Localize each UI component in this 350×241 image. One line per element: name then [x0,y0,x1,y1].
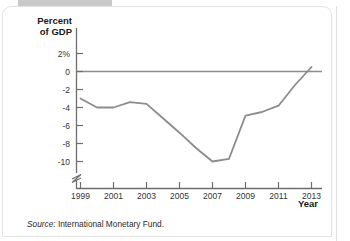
x-tick-label-2005: 2005 [163,191,197,201]
y-tick-label-minus-10: -10 [38,157,70,167]
x-tick-label-2001: 2001 [97,191,131,201]
source-label: Source: [27,219,56,229]
y-tick-label-0: 0 [38,67,70,77]
y-axis-title-line1: Percent [14,15,72,26]
y-tick-label-minus-2: -2 [38,85,70,95]
source-note: Source: International Monetary Fund. [27,219,164,229]
x-tick-label-2003: 2003 [130,191,164,201]
y-tick-label-minus-4: -4 [38,103,70,113]
plot-area: Percent of GDP Year 2% 0 -2 -4 -6 -8 -10… [0,0,350,241]
y-tick-label-minus-8: -8 [38,139,70,149]
x-tick-label-2009: 2009 [229,191,263,201]
source-value: International Monetary Fund. [56,219,164,229]
y-tick-label-minus-6: -6 [38,121,70,131]
y-tick-label-2: 2% [38,49,70,59]
x-tick-label-1999: 1999 [64,191,98,201]
x-tick-label-2011: 2011 [262,191,296,201]
y-axis-title: Percent of GDP [14,15,72,37]
x-tick-label-2007: 2007 [196,191,230,201]
x-tick-label-2013: 2013 [295,191,329,201]
y-axis-title-line2: of GDP [14,26,72,37]
figure-root: Percent of GDP Year 2% 0 -2 -4 -6 -8 -10… [0,0,350,241]
data-series-line [81,67,312,162]
